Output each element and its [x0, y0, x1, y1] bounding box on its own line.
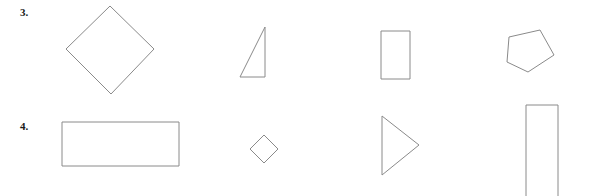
rhombus-large-outline	[66, 6, 154, 94]
row-label-3: 3.	[20, 7, 28, 18]
rectangle-landscape-large-outline	[62, 122, 179, 166]
shape-rectangle-portrait-small	[377, 26, 417, 84]
shape-pentagon	[502, 25, 562, 79]
triangle-right-pointing-outline	[382, 116, 419, 175]
rectangle-portrait-tall-outline	[526, 105, 558, 196]
worksheet-canvas: 3. 4.	[0, 0, 589, 196]
shape-rhombus-small	[246, 131, 284, 169]
rhombus-small-outline	[250, 135, 278, 163]
shape-rhombus-large	[62, 2, 158, 100]
shape-rectangle-portrait-tall	[521, 100, 565, 196]
shape-right-triangle	[236, 22, 272, 82]
right-triangle-outline	[240, 27, 265, 77]
rectangle-portrait-small-outline	[381, 31, 410, 79]
shape-rectangle-landscape-large	[57, 117, 185, 172]
pentagon-outline	[507, 30, 554, 72]
row-label-4: 4.	[20, 121, 28, 132]
shape-triangle-right-pointing	[377, 112, 425, 180]
